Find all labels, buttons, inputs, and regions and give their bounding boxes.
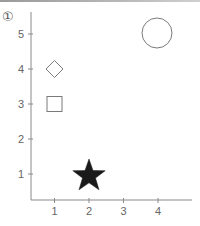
scatter-plot: 123451234 <box>0 0 200 226</box>
x-tick-label: 1 <box>51 205 57 217</box>
axes: 123451234 <box>18 12 192 217</box>
y-tick-label: 5 <box>18 28 24 40</box>
y-tick-label: 2 <box>18 133 24 145</box>
markers <box>46 18 172 190</box>
x-tick-label: 3 <box>120 205 126 217</box>
x-tick-label: 4 <box>155 205 161 217</box>
circle-marker <box>142 18 172 48</box>
x-tick-label: 2 <box>86 205 92 217</box>
star-marker <box>73 159 105 190</box>
diamond-marker <box>46 61 63 78</box>
y-tick-label: 1 <box>18 168 24 180</box>
y-tick-label: 4 <box>18 63 24 75</box>
square-marker <box>47 97 62 112</box>
y-tick-label: 3 <box>18 98 24 110</box>
